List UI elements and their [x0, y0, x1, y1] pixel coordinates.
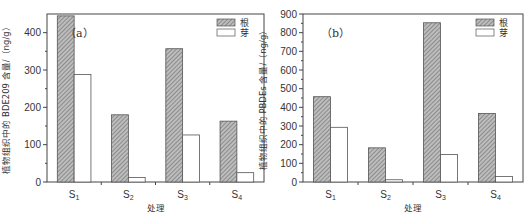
bar-root-S1	[57, 16, 74, 182]
legend-swatch-root	[476, 19, 494, 26]
bar-root-S4	[478, 113, 495, 182]
chart-b-pbdes: 0100200300400500600700800900S1S2S3S4处理植物…	[258, 9, 523, 214]
y-tick-label: 800	[280, 27, 297, 38]
x-tick-label: S2	[380, 189, 391, 201]
bar-root-S3	[166, 49, 183, 182]
bar-root-S2	[112, 115, 129, 182]
bar-root-S3	[423, 23, 440, 182]
y-tick-label: 200	[280, 139, 297, 150]
y-tick-label: 400	[24, 27, 41, 38]
x-tick-label: S1	[325, 189, 336, 201]
y-tick-label: 0	[291, 177, 297, 188]
bar-shoot-S3	[183, 135, 200, 182]
legend-swatch-root	[217, 19, 235, 26]
x-tick-label: S1	[69, 189, 80, 201]
y-axis-label: 植物组织中的 PBDEs 含量/（ng/g）	[258, 26, 268, 171]
x-axis-label: 处理	[147, 203, 165, 213]
y-tick-label: 600	[280, 65, 297, 76]
figure: 0100200300400S1S2S3S4处理植物组织中的 BDE209 含量/…	[0, 0, 531, 224]
x-tick-label: S2	[123, 189, 134, 201]
bar-root-S4	[220, 121, 237, 182]
x-axis: S1S2S3S4	[325, 182, 501, 201]
legend-label-shoot: 芽	[499, 27, 508, 38]
chart-a-bde209: 0100200300400S1S2S3S4处理植物组织中的 BDE209 含量/…	[1, 14, 264, 213]
y-tick-label: 300	[24, 65, 41, 76]
legend: 根芽	[476, 17, 508, 38]
bar-root-S1	[313, 97, 330, 182]
y-axis: 0100200300400	[24, 27, 47, 187]
bar-shoot-S1	[74, 74, 91, 182]
x-axis-label: 处理	[404, 203, 422, 213]
legend-swatch-shoot	[476, 29, 494, 36]
bar-shoot-S4	[496, 177, 513, 182]
x-tick-label: S4	[490, 189, 501, 201]
y-axis: 0100200300400500600700800900	[280, 9, 303, 188]
x-tick-label: S3	[435, 189, 446, 201]
y-tick-label: 100	[280, 158, 297, 169]
bar-root-S2	[368, 148, 385, 182]
x-tick-label: S4	[232, 189, 243, 201]
bars	[313, 23, 512, 182]
y-tick-label: 200	[24, 102, 41, 113]
y-tick-label: 100	[24, 139, 41, 150]
bar-shoot-S2	[386, 180, 403, 182]
legend-label-root: 根	[499, 17, 508, 28]
y-axis-label: 植物组织中的 BDE209 含量/（ng/g）	[1, 22, 11, 173]
y-tick-label: 300	[280, 121, 297, 132]
bar-shoot-S1	[331, 127, 348, 182]
legend-label-root: 根	[240, 17, 249, 28]
bars	[57, 16, 253, 182]
bar-shoot-S2	[128, 178, 145, 182]
bar-shoot-S3	[441, 155, 458, 182]
y-tick-label: 700	[280, 46, 297, 57]
y-tick-label: 0	[35, 177, 41, 188]
y-tick-label: 500	[280, 83, 297, 94]
legend-swatch-shoot	[217, 29, 235, 36]
legend: 根芽	[217, 17, 249, 38]
legend-label-shoot: 芽	[240, 27, 249, 38]
y-tick-label: 900	[280, 9, 297, 20]
panel-label: （b）	[321, 27, 350, 40]
x-tick-label: S3	[177, 189, 188, 201]
x-axis: S1S2S3S4	[69, 182, 242, 201]
bar-shoot-S4	[237, 173, 254, 182]
panel-label: （a）	[65, 27, 94, 40]
y-tick-label: 400	[280, 102, 297, 113]
